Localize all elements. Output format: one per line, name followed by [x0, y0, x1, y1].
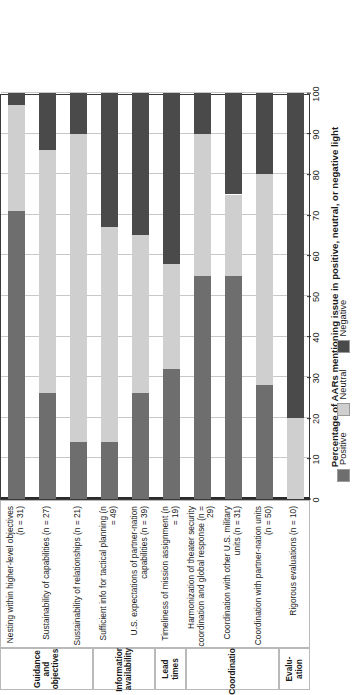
bar-segment-negative [256, 93, 273, 174]
category-label-text: Nesting within higher-level objectives(n… [6, 506, 26, 643]
bar-segment-negative [8, 93, 25, 105]
axis-tick-label: 100 [311, 86, 321, 101]
category-label-text: Harmonization of theater securitycoordin… [187, 506, 217, 647]
bar-row [256, 95, 273, 499]
bar-segment-positive [101, 442, 118, 499]
group-label-text: Guidance andobjectives [33, 649, 61, 690]
bar-segment-positive [256, 385, 273, 499]
category-label: Harmonization of theater securitycoordin… [186, 500, 217, 648]
axis-tick-mark [307, 174, 311, 175]
axis-tick-mark [307, 255, 311, 256]
bar-segment-neutral [8, 105, 25, 211]
bar-segment-neutral [70, 134, 87, 443]
category-label: Coordination with partner-nation units(n… [248, 500, 279, 648]
category-label-text: U.S. expectations of partner-nationcapab… [130, 506, 150, 635]
bar-segment-neutral [194, 134, 211, 276]
category-label: Nesting within higher-level objectives(n… [0, 500, 31, 648]
bar-segment-neutral [163, 264, 180, 370]
axis-tick-mark [307, 215, 311, 216]
bar-segment-positive [39, 393, 56, 499]
category-label: Rigorous evaluations (n = 10) [279, 500, 310, 648]
chart-legend: PositiveNeutralNegative [332, 102, 354, 482]
category-label: Coordination with other U.S. militaryuni… [217, 500, 248, 648]
bar-segment-neutral [256, 174, 273, 385]
axis-tick-mark [307, 499, 311, 500]
axis-tick-label: 40 [311, 332, 321, 342]
category-label-text: Coordination with other U.S. militaryuni… [223, 506, 243, 640]
bar-segment-neutral [287, 418, 304, 499]
category-label: Sustainability of capabilities (n = 27) [31, 500, 62, 648]
group-label: Guidance andobjectives [0, 648, 93, 690]
bar-row [8, 95, 25, 499]
bar-segment-neutral [132, 235, 149, 393]
axis-tick-label: 0 [311, 497, 321, 502]
category-label-text: Sustainability of relationships (n = 21) [73, 506, 83, 645]
axis-tick-mark [307, 134, 311, 135]
group-label-text: Coordination [228, 643, 237, 695]
category-label-text: Sustainability of capabilities (n = 27) [42, 506, 52, 640]
axis-tick-label: 60 [311, 251, 321, 261]
category-label: Sustainability of relationships (n = 21) [62, 500, 93, 648]
bar-segment-negative [39, 93, 56, 150]
axis-tick-label: 90 [311, 129, 321, 139]
group-label-text: Informationavailability [115, 646, 134, 692]
legend-label: Positive [338, 432, 348, 465]
axis-tick-mark [307, 418, 311, 419]
bar-segment-neutral [39, 150, 56, 394]
legend-swatch-neutral [337, 403, 350, 416]
bar-segment-negative [101, 93, 118, 227]
axis-tick-label: 80 [311, 170, 321, 180]
legend-item[interactable]: Positive [337, 432, 350, 482]
bar-row [225, 95, 242, 499]
bar-row [132, 95, 149, 499]
axis-tick-label: 10 [311, 454, 321, 464]
group-label-text: Leadtimes [161, 658, 180, 680]
bar-segment-negative [225, 93, 242, 195]
bar-segment-positive [225, 276, 242, 499]
bar-segment-negative [70, 93, 87, 134]
axis-tick-label: 70 [311, 211, 321, 221]
axis-tick-mark [307, 377, 311, 378]
category-label: Sufficient info for tactical planning (n… [93, 500, 124, 648]
bar-segment-positive [163, 369, 180, 499]
axis-tick-mark [307, 93, 311, 94]
bar-segment-positive [132, 393, 149, 499]
category-label-text: Sufficient info for tactical planning (n… [99, 506, 119, 647]
bar-row [70, 95, 87, 499]
legend-swatch-negative [337, 340, 350, 353]
bar-row [194, 95, 211, 499]
axis-tick-mark [307, 458, 311, 459]
group-label: Coordination [186, 648, 279, 690]
bar-segment-neutral [225, 195, 242, 276]
bar-row [101, 95, 118, 499]
axis-tick-label: 20 [311, 414, 321, 424]
bar-row [39, 95, 56, 499]
bar-segment-negative [194, 93, 211, 134]
bar-segment-neutral [101, 227, 118, 442]
bar-row [163, 95, 180, 499]
legend-item[interactable]: Negative [337, 300, 350, 354]
legend-label: Negative [338, 300, 348, 337]
axis-tick-mark [307, 337, 311, 338]
category-label-text: Rigorous evaluations (n = 10) [289, 506, 299, 616]
bar-segment-negative [287, 93, 304, 418]
category-label-text: Timeliness of mission assignment (n = 19… [161, 506, 181, 647]
axis-tick-label: 30 [311, 373, 321, 383]
bar-segment-positive [194, 276, 211, 499]
category-label-text: Coordination with partner-nation units(n… [254, 506, 274, 645]
bar-segment-negative [163, 93, 180, 264]
axis-tick-mark [307, 296, 311, 297]
bar-row [287, 95, 304, 499]
bar-segment-negative [132, 93, 149, 235]
bar-segment-positive [8, 211, 25, 499]
plot-area [0, 94, 310, 500]
bar-segment-positive [70, 442, 87, 499]
category-label: U.S. expectations of partner-nationcapab… [124, 500, 155, 648]
legend-item[interactable]: Neutral [337, 369, 350, 416]
category-label: Timeliness of mission assignment (n = 19… [155, 500, 186, 648]
group-label: Leadtimes [155, 648, 186, 690]
group-label: Informationavailability [93, 648, 155, 690]
group-label-text: Evalu-ation [285, 657, 304, 682]
legend-label: Neutral [338, 369, 348, 399]
